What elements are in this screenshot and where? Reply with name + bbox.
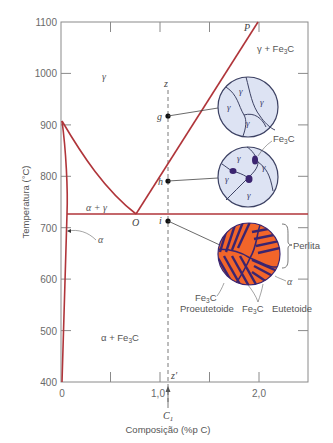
label-O: O: [132, 217, 139, 228]
svg-text:1000: 1000: [35, 68, 58, 79]
svg-text:2,0: 2,0: [252, 388, 266, 399]
svg-text:1100: 1100: [35, 17, 57, 28]
alpha-leader-line: [68, 230, 96, 240]
perlita-label: Perlita: [293, 240, 321, 251]
svg-text:400: 400: [40, 377, 57, 388]
label-P: P: [243, 22, 250, 33]
fe3c-eut-leader-1: [248, 285, 258, 302]
svg-text:γ: γ: [246, 118, 250, 128]
svg-text:700: 700: [40, 223, 57, 234]
svg-text:γ: γ: [239, 86, 243, 96]
eutetoide-label: Eutetoide: [272, 303, 312, 314]
label-h: h: [158, 176, 163, 187]
svg-text:γ: γ: [260, 97, 264, 107]
x-tick-labels: 0 1,0 2,0: [59, 388, 266, 399]
a3-line: [62, 121, 136, 214]
c1-arrow-head-icon: [166, 386, 171, 392]
region-alpha-fe3c: α + Fe3C: [101, 332, 139, 344]
perlita-brace: [282, 224, 292, 268]
alpha-solvus-line: [62, 121, 67, 382]
y-axis-title: Temperatura (°C): [20, 166, 31, 239]
label-i: i: [159, 215, 162, 226]
microstructure-h: γ γ γ γ: [218, 147, 278, 207]
svg-text:900: 900: [40, 120, 57, 131]
alpha-arrow-icon: [67, 229, 71, 233]
svg-text:γ: γ: [237, 153, 241, 163]
fe3c-pro-leader: [217, 283, 224, 296]
y-tick-labels: 1100 1000 900 800 700 600 500 400: [35, 17, 58, 388]
alpha-i-label: α: [287, 276, 293, 287]
svg-text:500: 500: [40, 326, 57, 337]
microstructure-g: γ γ γ γ: [218, 77, 278, 137]
svg-text:1,0: 1,0: [151, 388, 165, 399]
x-axis-title: Composição (%p C): [126, 424, 211, 435]
label-g: g: [157, 111, 162, 122]
region-alpha: α: [98, 234, 104, 245]
svg-text:600: 600: [40, 274, 57, 285]
phase-diagram: 1100 1000 900 800 700 600 500 400 0 1,0 …: [0, 0, 333, 443]
microstructure-i: [210, 220, 284, 290]
svg-text:γ: γ: [225, 174, 229, 184]
svg-text:γ: γ: [227, 102, 231, 112]
region-gamma-fe3c: γ + Fe3C: [257, 43, 294, 55]
label-z-prime: z′: [170, 370, 178, 381]
label-c1: C1: [163, 410, 173, 423]
svg-text:800: 800: [40, 171, 57, 182]
label-z: z: [163, 78, 168, 89]
svg-text:γ: γ: [247, 190, 251, 200]
svg-text:γ: γ: [262, 162, 266, 172]
leader-lines: [168, 108, 222, 246]
proeutetoide-label: Proeutetoide: [180, 303, 234, 314]
fe3c-h-label: Fe3C: [273, 133, 295, 145]
fe3c-eut-leader-2: [258, 284, 263, 302]
region-gamma: γ: [102, 71, 107, 82]
fe3c-eut-label: Fe3C: [242, 303, 264, 315]
y-axis-ticks: [61, 73, 71, 330]
region-alpha-gamma: α + γ: [86, 202, 108, 213]
y-axis-right-ticks: [298, 73, 308, 330]
svg-text:0: 0: [59, 388, 65, 399]
alpha-i-leader: [275, 276, 286, 281]
